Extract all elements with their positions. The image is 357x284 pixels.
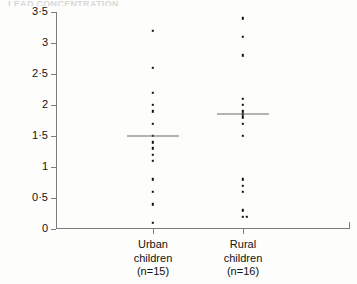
y-tick-label: 0	[42, 222, 48, 235]
data-point	[152, 203, 154, 205]
data-point	[242, 209, 244, 211]
y-tick-label: 1	[42, 160, 48, 173]
x-category-label-line-1: Rural	[183, 238, 303, 252]
data-point	[152, 104, 154, 106]
data-point	[242, 17, 244, 19]
data-point	[242, 191, 244, 193]
data-point	[152, 67, 154, 69]
y-tick-label: 2·5	[32, 67, 48, 80]
y-axis-line	[56, 12, 57, 229]
y-tick-label: 3	[42, 36, 48, 49]
data-point	[245, 215, 247, 217]
data-point	[242, 184, 244, 186]
y-tick-label: 0·5	[32, 191, 48, 204]
y-tick: 3	[51, 43, 56, 44]
data-point	[152, 147, 154, 149]
data-point	[242, 178, 244, 180]
data-point	[152, 191, 154, 193]
median-line	[217, 114, 269, 115]
data-point	[152, 222, 154, 224]
y-tick: 2	[51, 105, 56, 106]
y-tick: 0	[51, 229, 56, 230]
data-point	[242, 98, 244, 100]
data-point	[242, 110, 244, 112]
data-point	[242, 36, 244, 38]
data-point	[152, 153, 154, 155]
x-axis-line	[56, 228, 350, 229]
y-tick: 2·5	[51, 74, 56, 75]
y-tick-label: 2	[42, 98, 48, 111]
data-point	[152, 29, 154, 31]
data-point	[152, 141, 154, 143]
plot-area: 00·511·522·533·5 Urbanchildren(n=15)Rura…	[56, 12, 350, 229]
y-tick: 1·5	[51, 136, 56, 137]
data-point	[152, 178, 154, 180]
figure-dot-plot: LEAD CONCENTRATION Lead concentration (µ…	[0, 0, 357, 284]
x-category-label-line-2: children	[183, 252, 303, 266]
data-point	[152, 110, 154, 112]
y-tick-label: 3·5	[32, 5, 48, 18]
data-point	[242, 116, 244, 118]
data-point	[152, 91, 154, 93]
median-line	[127, 136, 179, 137]
data-point	[152, 160, 154, 162]
x-category-label-line-3: (n=16)	[183, 265, 303, 279]
data-point	[152, 122, 154, 124]
data-point	[242, 122, 244, 124]
y-tick: 3·5	[51, 12, 56, 13]
y-tick: 0·5	[51, 198, 56, 199]
x-axis-end-tick	[349, 222, 350, 229]
data-point	[242, 135, 244, 137]
data-point	[242, 54, 244, 56]
y-tick-label: 1·5	[32, 129, 48, 142]
x-category-label: Ruralchildren(n=16)	[183, 238, 303, 279]
y-tick: 1	[51, 167, 56, 168]
x-tick	[243, 228, 244, 234]
x-tick	[153, 228, 154, 234]
data-point	[242, 104, 244, 106]
data-point	[242, 215, 244, 217]
